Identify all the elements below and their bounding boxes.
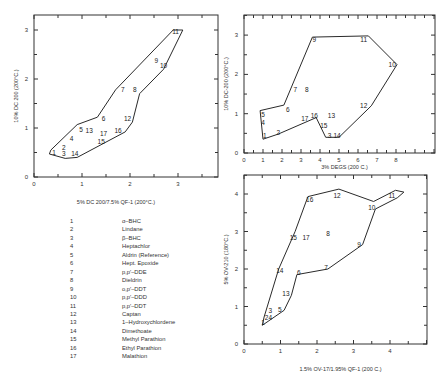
legend-number: 3 (70, 235, 73, 242)
x-tick-label: 5 (337, 157, 341, 163)
y-tick-label: 1 (235, 304, 239, 310)
compound-point-label: 4 (268, 314, 272, 321)
compound-point-label: 5 (278, 306, 282, 313)
x-tick-label: 2 (280, 157, 284, 163)
legend-number: 4 (70, 243, 73, 250)
legend-number: 8 (70, 277, 73, 284)
legend-compound-name: p,p′–DDT (122, 303, 146, 310)
legend-compound-name: Aldrin (Reference) (122, 252, 169, 259)
compound-point-label: 14 (276, 267, 284, 274)
x-tick-label: 6 (356, 157, 360, 163)
compound-point-label: 1 (263, 132, 267, 139)
compound-point-label: 7 (121, 86, 125, 93)
relative-retention-charts: 012301235% DC 200/7.5% QF-1 (200°C.)10% … (0, 0, 446, 376)
x-tick-label: 2 (128, 181, 132, 187)
x-axis-label: 3% DEGS (200 C.) (321, 164, 368, 170)
compound-point-label: 15 (290, 234, 298, 241)
compound-point-label: 9 (312, 36, 316, 43)
plot-dc200-vs-dc200-qf1: 012301235% DC 200/7.5% QF-1 (200°C.)10% … (13, 15, 218, 205)
x-tick-label: 4 (318, 157, 322, 163)
compound-point-label: 16 (306, 196, 314, 203)
y-tick-label: 2 (235, 266, 239, 272)
compound-point-label: 17 (302, 234, 310, 241)
legend-number: 6 (70, 260, 73, 267)
compound-point-label: 5 (261, 111, 265, 118)
compound-point-label: 9 (155, 57, 159, 64)
compound-point-label: 10 (160, 62, 168, 69)
compound-point-label: 7 (293, 86, 297, 93)
compound-point-label: 1 (52, 149, 56, 156)
legend-compound-name: p,p′–DDE (122, 269, 147, 276)
compound-point-label: 11 (360, 36, 367, 43)
y-tick-label: 3 (25, 27, 29, 33)
compound-point-label: 13 (282, 290, 290, 297)
legend-number: 2 (70, 226, 73, 233)
compound-point-label: 10 (368, 204, 376, 211)
compound-point-label: 13 (328, 112, 336, 119)
compound-point-label: 8 (133, 86, 137, 93)
legend-number: 11 (70, 303, 76, 310)
legend-compound-name: Dieldrin (122, 277, 142, 284)
x-tick-label: 0 (242, 157, 246, 163)
x-tick-label: 7 (375, 157, 379, 163)
y-tick-label: 3 (235, 229, 239, 235)
compound-point-label: 6 (286, 106, 290, 113)
compound-point-label: 4 (70, 135, 74, 142)
legend-compound-name: o,p′–DDT (122, 286, 146, 293)
compound-point-label: 8 (305, 86, 309, 93)
legend-number: 10 (70, 294, 76, 301)
y-tick-label: 1 (235, 111, 239, 117)
plot-ov210-vs-ov17-qf1: 01234012341.5% OV-17/1.95% QF-1 (200 C.)… (223, 175, 427, 372)
compound-point-label: 3 (328, 132, 332, 139)
y-tick-label: 0 (235, 341, 239, 347)
x-tick-label: 1 (261, 157, 265, 163)
legend-number: 9 (70, 286, 73, 293)
compound-point-label: 12 (360, 102, 368, 109)
x-tick-label: 3 (352, 348, 356, 354)
retention-envelope (262, 189, 404, 325)
legend-compound-name: β–BHC (122, 235, 141, 242)
legend-compound-name: Dimethoate (122, 328, 152, 335)
legend-number: 16 (70, 345, 76, 352)
compound-point-label: 17 (301, 115, 309, 122)
y-axis-label: 10% DC 200 (200°C.) (13, 69, 19, 122)
legend-compound-name: Malathion (122, 353, 147, 360)
legend-number: 17 (70, 353, 76, 360)
compound-point-label: 6 (102, 115, 106, 122)
legend-compound-name: Hept. Epoxide (122, 260, 158, 267)
legend-compound-name: α–BHC (122, 218, 141, 225)
legend-number: 5 (70, 252, 73, 259)
x-tick-label: 3 (299, 157, 303, 163)
compound-point-label: 15 (98, 138, 106, 145)
legend-compound-name: Ethyl Parathion (122, 345, 161, 352)
compound-point-label: 11 (172, 28, 179, 35)
legend-compound-name: Lindane (122, 226, 143, 233)
retention-envelope (260, 36, 397, 139)
y-tick-label: 2 (235, 71, 239, 77)
legend-number: 14 (70, 328, 76, 335)
y-tick-label: 0 (235, 150, 239, 156)
legend-number: 15 (70, 336, 76, 343)
y-tick-label: 2 (25, 76, 29, 82)
compound-point-label: 3 (62, 150, 66, 157)
x-tick-label: 1 (279, 348, 283, 354)
y-tick-label: 4 (235, 191, 239, 197)
x-tick-label: 0 (32, 181, 36, 187)
compound-point-label: 17 (100, 130, 108, 137)
compound-point-label: 15 (320, 122, 328, 129)
compound-point-label: 16 (114, 127, 122, 134)
compound-point-label: 5 (79, 126, 83, 133)
x-tick-label: 2 (315, 348, 319, 354)
compound-point-label: 12 (333, 192, 341, 199)
compound-point-label: 16 (311, 112, 319, 119)
legend-number: 1 (70, 218, 73, 225)
compound-point-label: 14 (71, 150, 79, 157)
y-tick-label: 0 (25, 174, 29, 180)
y-tick-label: 3 (235, 32, 239, 38)
compound-point-label: 12 (124, 115, 132, 122)
compound-point-label: 10 (389, 61, 397, 68)
compound-point-label: 2 (276, 129, 280, 136)
compound-point-label: 11 (388, 192, 395, 199)
compound-point-label: 14 (333, 132, 341, 139)
x-tick-label: 8 (394, 157, 398, 163)
